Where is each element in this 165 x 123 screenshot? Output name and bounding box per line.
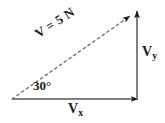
vx-label: Vx [68,102,83,118]
vx-label-subscript: x [78,107,83,118]
vector-diagram: V = 5 N 30° Vx Vy [0,0,165,123]
vy-label-base: V [142,44,152,59]
vy-label: Vy [142,45,157,61]
vy-label-subscript: y [152,50,157,61]
vx-label-base: V [68,101,78,116]
angle-label: 30° [33,79,51,92]
resultant-vector-arrow [12,16,130,99]
